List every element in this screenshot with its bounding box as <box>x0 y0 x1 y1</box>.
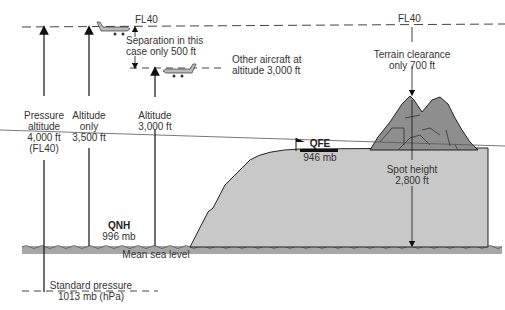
other-aircraft-2: altitude 3,000 ft <box>232 65 301 76</box>
qfe-label: QFE <box>310 138 331 149</box>
pressure-altitude-1: Pressure <box>24 110 64 121</box>
pressure-altitude-4: (FL40) <box>29 143 58 154</box>
altitude-only-3: 3,500 ft <box>72 132 106 143</box>
terrain-clearance-2: only 700 ft <box>389 60 435 71</box>
separation-label-1: Separation in this <box>126 35 203 46</box>
fl40-right-label: FL40 <box>398 13 421 24</box>
fl40-line <box>22 24 505 27</box>
std-pressure-2: 1013 mb (hPa) <box>58 291 124 302</box>
altitude-3000-1: Altitude <box>138 110 172 121</box>
spot-height-2: 2,800 ft <box>395 175 429 186</box>
altitude-3000-2: 3,000 ft <box>138 121 172 132</box>
plateau-terrain <box>190 148 488 247</box>
separation-label-2: case only 500 ft <box>126 46 196 57</box>
altimetry-diagram: FL40 FL40 Separation in this case only 5… <box>0 0 505 310</box>
msl-label: Mean sea level <box>122 249 189 260</box>
aircraft-fl40 <box>97 22 130 36</box>
other-aircraft-1: Other aircraft at <box>232 54 302 65</box>
spot-height-1: Spot height <box>387 164 438 175</box>
altitude-only-2: only <box>80 121 98 132</box>
altitude-only-1: Altitude <box>72 110 106 121</box>
qfe-value: 946 mb <box>303 152 337 163</box>
qnh-value: 996 mb <box>102 231 136 242</box>
terrain-clearance-1: Terrain clearance <box>374 49 451 60</box>
aircraft-3000ft <box>163 64 196 78</box>
qnh-label: QNH <box>108 220 130 231</box>
std-pressure-1: Standard pressure <box>50 280 133 291</box>
fl40-left-label: FL40 <box>135 14 158 25</box>
pressure-altitude-3: 4,000 ft <box>27 132 61 143</box>
pressure-altitude-2: altitude <box>28 121 61 132</box>
